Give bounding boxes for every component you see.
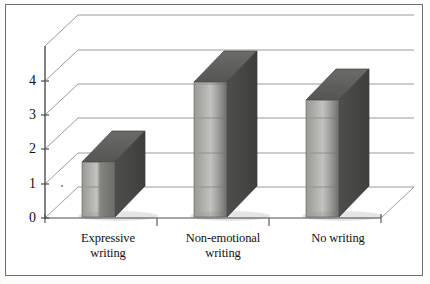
y-axis — [41, 46, 49, 219]
bar-no-writing[interactable] — [302, 69, 382, 221]
axis-artifact-mark — [61, 185, 63, 187]
category-label-line1: Non-emotional — [168, 231, 278, 246]
category-label-non-emotional-writing: Non-emotional writing — [168, 231, 278, 261]
category-label-no-writing: No writing — [288, 231, 388, 246]
y-tick-label-4: 4 — [14, 74, 36, 88]
y-tick-label-3: 3 — [14, 108, 36, 122]
floor-plane — [381, 187, 414, 218]
y-tick-label-0: 0 — [14, 211, 36, 225]
category-label-expressive-writing: Expressive writing — [58, 231, 158, 261]
bar-expressive-writing[interactable] — [78, 131, 158, 221]
category-label-line2: writing — [168, 246, 278, 261]
y-tick-label-1: 1 — [14, 177, 36, 191]
category-label-line2: writing — [58, 246, 158, 261]
bar-non-emotional-writing[interactable] — [190, 51, 270, 221]
category-label-line1: No writing — [288, 231, 388, 246]
category-label-line1: Expressive — [58, 231, 158, 246]
chart-figure: 4 3 2 1 0 Expressive writing Non-emotion… — [0, 0, 430, 284]
y-tick-label-2: 2 — [14, 142, 36, 156]
